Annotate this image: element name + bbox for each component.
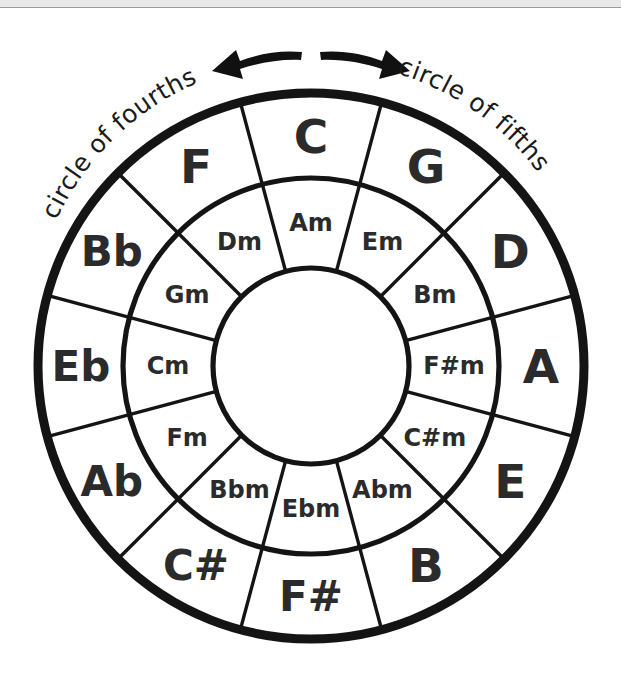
major-key-csharp[interactable]: C# bbox=[163, 541, 229, 590]
minor-key-fsharpm[interactable]: F#m bbox=[423, 352, 485, 380]
minor-key-gm[interactable]: Gm bbox=[165, 281, 210, 309]
sector-divider-outer bbox=[493, 415, 575, 437]
sector-divider-outer bbox=[493, 295, 575, 317]
sector-dividers bbox=[47, 102, 574, 629]
sector-divider-outer bbox=[360, 102, 382, 184]
minor-key-ebm[interactable]: Ebm bbox=[282, 495, 341, 523]
sector-divider-outer bbox=[240, 102, 262, 184]
caption-circle-of-fourths: circle of fourths bbox=[35, 62, 200, 224]
sector-divider-inner bbox=[406, 391, 493, 414]
major-key-b[interactable]: B bbox=[408, 538, 444, 593]
sector-divider-outer bbox=[240, 548, 262, 630]
sector-divider-inner bbox=[129, 391, 216, 414]
sector-divider-inner bbox=[129, 317, 216, 340]
minor-key-fm[interactable]: Fm bbox=[166, 424, 207, 452]
major-key-c[interactable]: C bbox=[294, 109, 329, 164]
minor-key-cm[interactable]: Cm bbox=[147, 352, 190, 380]
sector-divider-outer bbox=[47, 295, 129, 317]
sector-divider-outer bbox=[47, 415, 129, 437]
minor-key-am[interactable]: Am bbox=[289, 209, 333, 237]
major-key-bb[interactable]: Bb bbox=[81, 227, 143, 276]
arrow-left-icon bbox=[212, 50, 302, 79]
major-key-d[interactable]: D bbox=[491, 224, 530, 279]
major-key-eb[interactable]: Eb bbox=[52, 342, 111, 391]
major-key-g[interactable]: G bbox=[407, 139, 446, 194]
minor-key-bbm[interactable]: Bbm bbox=[209, 476, 269, 504]
major-key-fsharp[interactable]: F# bbox=[279, 572, 343, 621]
minor-key-em[interactable]: Em bbox=[362, 228, 403, 256]
minor-key-csharpm[interactable]: C#m bbox=[403, 424, 466, 452]
minor-key-labels: AmEmBmF#mC#mAbmEbmBbmFmCmGmDm bbox=[147, 209, 485, 523]
sector-divider-inner bbox=[336, 184, 359, 271]
major-key-ab[interactable]: Ab bbox=[81, 457, 144, 506]
inner-hub-circle bbox=[213, 268, 409, 464]
circle-of-fifths-figure: CGDAEBF#C#AbEbBbF AmEmBmF#mC#mAbmEbmBbmF… bbox=[0, 0, 621, 681]
sector-divider-inner bbox=[262, 184, 285, 271]
sector-divider-inner bbox=[406, 317, 493, 340]
minor-key-abm[interactable]: Abm bbox=[352, 476, 413, 504]
major-key-a[interactable]: A bbox=[523, 339, 560, 394]
major-key-f[interactable]: F bbox=[180, 139, 212, 194]
minor-key-bm[interactable]: Bm bbox=[413, 281, 456, 309]
sector-divider-outer bbox=[360, 548, 382, 630]
minor-key-dm[interactable]: Dm bbox=[217, 228, 262, 256]
direction-arrows bbox=[212, 50, 410, 79]
major-key-e[interactable]: E bbox=[494, 454, 526, 509]
sector-divider-outer bbox=[118, 173, 178, 233]
